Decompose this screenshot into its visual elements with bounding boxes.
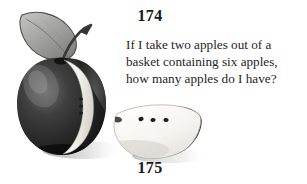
riddle-line-2: basket containing six apples, [126,53,302,70]
apple-leaf [20,12,76,60]
apple-illustration [0,0,307,184]
book-page: 174 If I take two apples out of a basket… [0,0,307,184]
riddle-line-3: how many apples do I have? [126,70,302,87]
apple-seeds [79,98,83,115]
riddle-line-1: If I take two apples out of a [126,36,302,53]
page-number-bottom: 175 [120,159,180,177]
page-number-top: 174 [120,7,180,25]
riddle-text: If I take two apples out of a basket con… [126,36,302,88]
